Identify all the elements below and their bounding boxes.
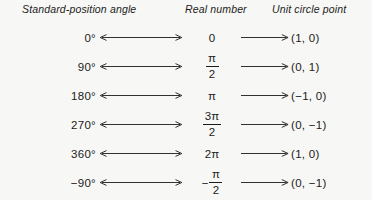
fraction-numerator: 3π bbox=[203, 110, 221, 122]
double-headed-arrow-icon bbox=[99, 168, 183, 197]
cell-standard-position-angle: 270° bbox=[0, 110, 96, 139]
fraction-denominator: 2 bbox=[207, 126, 217, 138]
right-arrow-icon bbox=[241, 168, 289, 197]
cell-unit-circle-point: (0, 1) bbox=[291, 52, 320, 81]
table-row: 270° 3π2 (0, −1) bbox=[0, 110, 372, 139]
table-row: 360° 2π (1, 0) bbox=[0, 139, 372, 168]
cell-standard-position-angle: 90° bbox=[0, 52, 96, 81]
cell-standard-position-angle: 360° bbox=[0, 139, 96, 168]
cell-real-number: −π2 bbox=[186, 168, 238, 197]
table-row: 0° 0 (1, 0) bbox=[0, 23, 372, 52]
table-row: 180° π (−1, 0) bbox=[0, 81, 372, 110]
double-headed-arrow-icon bbox=[99, 81, 183, 110]
cell-real-number: 2π bbox=[186, 139, 238, 168]
right-arrow-icon bbox=[241, 81, 289, 110]
column-header-real-number: Real number bbox=[185, 3, 247, 15]
table-row: 90° π2 (0, 1) bbox=[0, 52, 372, 81]
table-row: −90° −π2 (0, −1) bbox=[0, 168, 372, 197]
column-header-standard-position-angle: Standard-position angle bbox=[22, 3, 136, 15]
fraction: π2 bbox=[206, 53, 219, 80]
double-headed-arrow-icon bbox=[99, 139, 183, 168]
cell-standard-position-angle: 0° bbox=[0, 23, 96, 52]
cell-unit-circle-point: (0, −1) bbox=[291, 110, 327, 139]
fraction-numerator: π bbox=[210, 168, 222, 180]
fraction: −π2 bbox=[202, 169, 223, 196]
cell-unit-circle-point: (1, 0) bbox=[291, 23, 320, 52]
right-arrow-icon bbox=[241, 110, 289, 139]
table-figure: Standard-position angle Real number Unit… bbox=[0, 0, 372, 200]
cell-unit-circle-point: (0, −1) bbox=[291, 168, 327, 197]
cell-real-number: 3π2 bbox=[186, 110, 238, 139]
fraction-denominator: 2 bbox=[207, 68, 217, 80]
fraction-bar bbox=[206, 66, 219, 67]
cell-real-number: 0 bbox=[186, 23, 238, 52]
cell-unit-circle-point: (−1, 0) bbox=[291, 81, 327, 110]
table-header-row: Standard-position angle Real number Unit… bbox=[0, 3, 372, 19]
cell-real-number: π bbox=[186, 81, 238, 110]
cell-unit-circle-point: (1, 0) bbox=[291, 139, 320, 168]
double-headed-arrow-icon bbox=[99, 52, 183, 81]
fraction-numerator: π bbox=[206, 52, 218, 64]
fraction: 3π2 bbox=[203, 111, 221, 138]
cell-standard-position-angle: −90° bbox=[0, 168, 96, 197]
right-arrow-icon bbox=[241, 52, 289, 81]
table-body: 0° 0 (1, 0) 90° π2 bbox=[0, 23, 372, 197]
double-headed-arrow-icon bbox=[99, 23, 183, 52]
cell-real-number: π2 bbox=[186, 52, 238, 81]
right-arrow-icon bbox=[241, 139, 289, 168]
fraction-bar bbox=[203, 124, 221, 125]
fraction-denominator: 2 bbox=[211, 184, 221, 196]
double-headed-arrow-icon bbox=[99, 110, 183, 139]
fraction-bar bbox=[209, 182, 222, 183]
right-arrow-icon bbox=[241, 23, 289, 52]
fraction-sign: − bbox=[202, 177, 209, 189]
cell-standard-position-angle: 180° bbox=[0, 81, 96, 110]
column-header-unit-circle-point: Unit circle point bbox=[272, 3, 346, 15]
